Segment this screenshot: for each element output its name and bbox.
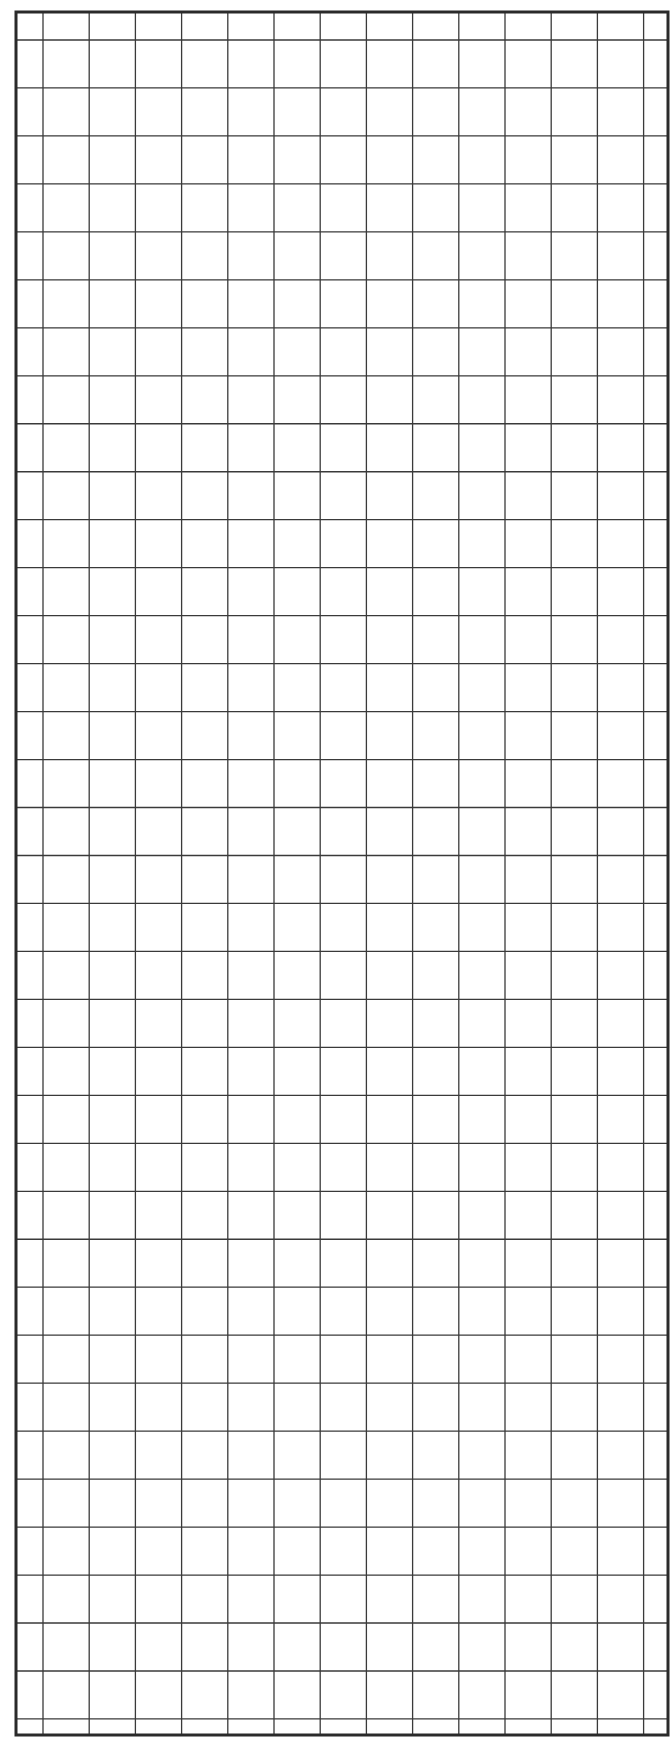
vertical-grid-lines — [43, 12, 644, 1735]
horizontal-grid-lines — [16, 40, 668, 1719]
grid-canvas — [0, 0, 671, 1738]
outer-border — [16, 12, 668, 1735]
